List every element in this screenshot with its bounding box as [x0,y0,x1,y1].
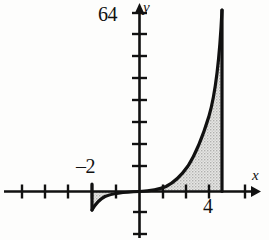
graph-canvas [0,0,269,240]
x-axis-tick-label-4: 4 [203,196,213,216]
figure-container: 64 –2 4 x y [0,0,269,240]
x-axis-tick-label-negative-2: –2 [76,156,95,176]
shaded-region-positive [140,10,223,192]
x-axis-label: x [252,168,259,183]
y-axis-tick-label-64: 64 [98,4,117,24]
y-axis [135,3,145,238]
y-axis-label: y [143,0,150,15]
